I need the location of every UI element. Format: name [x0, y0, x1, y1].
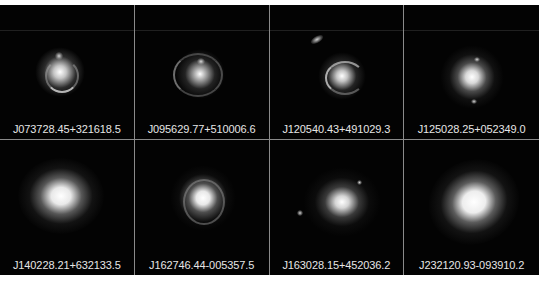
einstein-ring [45, 59, 79, 93]
lensed-knot [357, 180, 362, 185]
einstein-arc [325, 61, 365, 95]
companion-knot [197, 58, 205, 65]
galaxy-panel-7: J163028.15+452036.2 [270, 140, 405, 275]
galaxy-panel-6: J162746.44-005357.5 [135, 140, 270, 275]
einstein-ring [183, 179, 225, 225]
galaxy-panel-2: J095629.77+510006.6 [135, 5, 270, 140]
galaxy-panel-4: J125028.25+052349.0 [404, 5, 539, 140]
lensed-knot [297, 210, 303, 216]
scan-artifact [135, 30, 269, 31]
galaxy-panel-8: J232120.93-093910.2 [404, 140, 539, 275]
galaxy-panel-5: J140228.21+632133.5 [0, 140, 135, 275]
object-name-label: J125028.25+052349.0 [404, 123, 539, 135]
object-name-label: J232120.93-093910.2 [404, 259, 539, 271]
galaxy-halo [18, 158, 104, 234]
object-name-label: J073728.45+321618.5 [0, 123, 134, 135]
object-name-label: J140228.21+632133.5 [0, 259, 134, 271]
galaxy-halo [302, 166, 382, 238]
scan-artifact [0, 30, 134, 31]
galaxy-panel-1: J073728.45+321618.5 [0, 5, 135, 140]
lens-galaxy-image-grid: J073728.45+321618.5 J095629.77+510006.6 … [0, 5, 539, 275]
companion-knot [55, 52, 63, 60]
galaxy-panel-3: J120540.43+491029.3 [270, 5, 405, 140]
object-name-label: J162746.44-005357.5 [135, 259, 269, 271]
object-name-label: J163028.15+452036.2 [270, 259, 404, 271]
galaxy-halo [415, 144, 534, 259]
object-name-label: J120540.43+491029.3 [270, 123, 404, 135]
companion-galaxy [309, 33, 325, 46]
scan-artifact [270, 30, 404, 31]
scan-artifact [404, 30, 539, 31]
object-name-label: J095629.77+510006.6 [135, 123, 269, 135]
